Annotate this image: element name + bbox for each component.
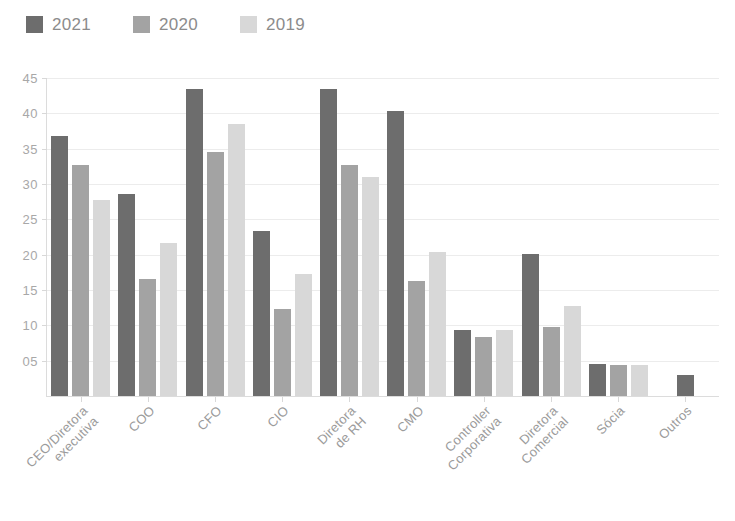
x-axis-tick-label-line: Sócia (594, 403, 628, 437)
bar (454, 330, 471, 396)
x-axis-tick-label: CFO (194, 403, 224, 433)
x-axis-tick-label-line: CIO (264, 403, 291, 430)
bar (631, 365, 648, 396)
bar-group (181, 78, 248, 396)
bar (118, 194, 135, 396)
bar (72, 165, 89, 396)
x-axis-label-cell: CEO/Diretoraexecutiva (46, 397, 113, 521)
x-axis-tick-label: Sócia (594, 403, 628, 437)
x-axis-label-cell: COO (113, 397, 180, 521)
x-axis-tick-label: Diretorade RH (315, 403, 370, 458)
x-axis-tick-label: CIO (264, 403, 291, 430)
y-axis-tick-label: 25 (23, 212, 38, 227)
bar (589, 364, 606, 396)
legend-label: 2020 (159, 16, 198, 33)
legend-swatch-icon (26, 16, 43, 33)
bar-group (585, 78, 652, 396)
bar-group (450, 78, 517, 396)
bar (387, 111, 404, 396)
bar-group (249, 78, 316, 396)
x-axis-tick-label: Outros (656, 403, 695, 442)
bar (139, 279, 156, 396)
y-axis-tick-label: 20 (23, 247, 38, 262)
x-axis-tick-label: COO (125, 403, 157, 435)
bar (186, 89, 203, 396)
bar-group (517, 78, 584, 396)
x-axis-tick-label-line: COO (125, 403, 157, 435)
bar-group (114, 78, 181, 396)
bar (160, 243, 177, 396)
y-axis-tick-label: 45 (23, 71, 38, 86)
y-axis-tick-label: 40 (23, 106, 38, 121)
bar (496, 330, 513, 396)
bar (253, 231, 270, 396)
x-axis-tick-label-line: Outros (656, 403, 695, 442)
x-axis-label-cell: CIO (248, 397, 315, 521)
bar (677, 375, 694, 396)
bar-groups (47, 78, 719, 396)
y-axis-tick-label: 10 (23, 318, 38, 333)
legend-swatch-icon (133, 16, 150, 33)
bar (408, 281, 425, 396)
bar (228, 124, 245, 396)
x-axis-label-cell: DiretoraComercial (516, 397, 583, 521)
x-axis-tick-label-line: CMO (394, 403, 426, 435)
x-axis-label-cell: ControllerCorporativa (449, 397, 516, 521)
bar (341, 165, 358, 396)
y-axis-tick-label: 35 (23, 141, 38, 156)
x-axis-tick-label-line: CFO (194, 403, 224, 433)
y-axis-tick-label: 30 (23, 177, 38, 192)
bar (610, 365, 627, 396)
x-axis-tick-label: CMO (394, 403, 426, 435)
bar (475, 337, 492, 396)
bar (274, 309, 291, 396)
bar (522, 254, 539, 396)
x-axis-label-cell: CMO (382, 397, 449, 521)
bar (320, 89, 337, 396)
bar (564, 306, 581, 396)
x-axis-label-cell: CFO (180, 397, 247, 521)
bar (93, 200, 110, 396)
x-axis-tick-label: DiretoraComercial (507, 403, 571, 467)
bar-group (47, 78, 114, 396)
legend-item-2019: 2019 (240, 16, 305, 33)
chart-plot-area: 051015202530354045 (46, 78, 719, 397)
bar (207, 152, 224, 396)
bar (543, 327, 560, 396)
bar-group (652, 78, 719, 396)
bar-group (316, 78, 383, 396)
bar (362, 177, 379, 396)
legend-item-2021: 2021 (26, 16, 91, 33)
x-axis-tick-label: CEO/Diretoraexecutiva (23, 403, 101, 481)
bar (429, 252, 446, 396)
legend-swatch-icon (240, 16, 257, 33)
x-axis-label-cell: Diretorade RH (315, 397, 382, 521)
x-axis-labels: CEO/DiretoraexecutivaCOOCFOCIODiretorade… (46, 397, 718, 521)
bar (51, 136, 68, 396)
y-axis-tick-label: 05 (23, 353, 38, 368)
chart-legend: 2021 2020 2019 (26, 12, 305, 36)
legend-item-2020: 2020 (133, 16, 198, 33)
y-axis-tick-label: 15 (23, 283, 38, 298)
bar (295, 274, 312, 396)
x-axis-label-cell: Outros (651, 397, 718, 521)
legend-label: 2019 (266, 16, 305, 33)
bar-group (383, 78, 450, 396)
x-axis-label-cell: Sócia (584, 397, 651, 521)
legend-label: 2021 (52, 16, 91, 33)
